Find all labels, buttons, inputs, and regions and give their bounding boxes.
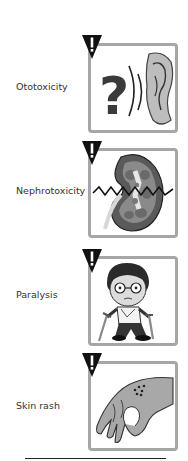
kidney-icon [91,151,175,235]
bottom-divider [25,458,166,459]
person-crutches-icon [91,259,175,343]
warning-icon [82,353,102,377]
ear-question-icon: ? [91,46,175,130]
hand-rash-icon [91,364,175,448]
panel-label: Ototoxicity [16,81,68,92]
warning-icon [82,249,102,273]
warning-triangle [82,35,102,59]
warning-icon [82,141,102,165]
warning-triangle [82,249,102,273]
warning-icon [82,35,102,59]
warning-triangle [82,353,102,377]
panel-label: Nephrotoxicity [16,185,85,196]
warning-triangle [82,141,102,165]
panel-label: Skin rash [16,400,60,411]
panel-label: Paralysis [16,289,58,300]
svg-text:?: ? [99,66,129,126]
